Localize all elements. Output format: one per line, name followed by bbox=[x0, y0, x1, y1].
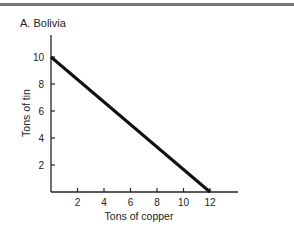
ppf-line bbox=[51, 57, 210, 192]
x-tick-label: 4 bbox=[101, 197, 107, 208]
y-tick-label: 6 bbox=[38, 106, 44, 117]
y-axis-label: Tons of tin bbox=[20, 89, 32, 137]
x-tick-label: 8 bbox=[154, 197, 160, 208]
x-axis-label: Tons of copper bbox=[105, 210, 174, 222]
y-tick-label: 2 bbox=[38, 160, 44, 171]
chart-plot: 246810 24681012 Tons of copper Tons of t… bbox=[0, 0, 294, 237]
x-tick-label: 12 bbox=[204, 197, 216, 208]
y-ticks: 246810 bbox=[33, 52, 55, 171]
y-tick-label: 4 bbox=[38, 133, 44, 144]
y-tick-label: 8 bbox=[38, 79, 44, 90]
x-tick-label: 2 bbox=[75, 197, 81, 208]
x-tick-label: 10 bbox=[178, 197, 190, 208]
y-tick-label: 10 bbox=[33, 52, 45, 63]
x-ticks: 24681012 bbox=[75, 188, 216, 208]
x-tick-label: 6 bbox=[128, 197, 134, 208]
